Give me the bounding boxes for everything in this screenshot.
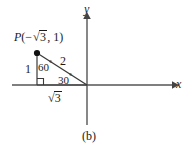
angle-60-value: 60 [38, 61, 49, 73]
angle-60-degree-symbol: ° [49, 59, 52, 68]
point-p-x-radical: √3 [32, 30, 47, 43]
angle-30-label: 30° [58, 73, 72, 86]
base-radical: √3 [47, 91, 62, 104]
point-p-close-paren: ) [59, 30, 63, 44]
point-p-marker [34, 50, 40, 56]
angle-30-value: 30 [58, 74, 69, 86]
side-length-1-label: 1 [25, 63, 31, 75]
x-axis-label: x [176, 78, 181, 90]
y-axis-label: y [84, 3, 89, 15]
right-angle-marker [37, 79, 44, 86]
figure-container: P(− √3, 1) 1 60° 2 30° √3 y x (b) [0, 0, 190, 149]
point-p-minus-sign: − [25, 30, 32, 44]
side-length-2-label: 2 [60, 55, 66, 67]
y-axis [83, 12, 91, 125]
point-p-x-radicand: 3 [39, 30, 47, 43]
figure-caption: (b) [82, 130, 96, 142]
angle-60-label: 60° [38, 60, 52, 73]
point-p-label: P(− √3, 1) [14, 30, 63, 43]
base-radicand: 3 [54, 91, 62, 104]
side-length-sqrt3-label: √3 [47, 91, 62, 104]
angle-30-degree-symbol: ° [69, 72, 72, 81]
